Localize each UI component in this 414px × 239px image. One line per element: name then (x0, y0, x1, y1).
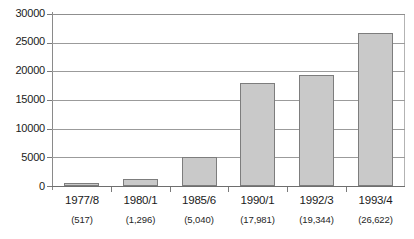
x-axis-category-value: (19,344) (287, 213, 346, 226)
x-axis-category-label: 1992/3 (287, 194, 346, 207)
bar-1992-3 (299, 75, 334, 186)
x-axis-tick-mark (346, 187, 347, 192)
bar-1990-1 (240, 83, 275, 186)
gridline-20000 (52, 71, 405, 72)
x-axis-category-label: 1977/8 (53, 194, 111, 207)
y-axis-tick-label: 20000 (1, 65, 45, 76)
y-axis-tick-label: 30000 (1, 8, 45, 19)
x-axis-category-label: 1985/6 (170, 194, 228, 207)
gridline-10000 (52, 129, 405, 130)
x-axis-tick-mark (111, 187, 112, 192)
bar-1977-8 (64, 183, 99, 186)
gridline-15000 (52, 100, 405, 101)
x-axis-category-label: 1990/1 (228, 194, 287, 207)
y-axis-tick-label: 5000 (1, 152, 45, 163)
x-axis-tick-mark (170, 187, 171, 192)
x-axis-category-1977-8: 1977/8 (517) (53, 194, 111, 226)
x-axis-category-label: 1993/4 (346, 194, 405, 207)
bar-chart: 30000 25000 20000 15000 10000 5000 0 (0, 0, 414, 239)
y-axis-tick-label: 10000 (1, 123, 45, 134)
gridline-30000 (52, 14, 405, 15)
x-axis-category-1990-1: 1990/1 (17,981) (228, 194, 287, 226)
bar-1985-6 (182, 157, 217, 186)
x-axis-category-1980-1: 1980/1 (1,296) (111, 194, 170, 226)
x-axis-category-value: (17,981) (228, 213, 287, 226)
x-axis-category-label: 1980/1 (111, 194, 170, 207)
x-axis-category-1985-6: 1985/6 (5,040) (170, 194, 228, 226)
x-axis-tick-mark (287, 187, 288, 192)
x-axis-tick-mark (228, 187, 229, 192)
plot-area (52, 14, 405, 186)
bar-1993-4 (358, 33, 393, 186)
x-axis-category-1992-3: 1992/3 (19,344) (287, 194, 346, 226)
x-axis-category-value: (517) (53, 213, 111, 226)
gridline-25000 (52, 43, 405, 44)
x-axis-category-1993-4: 1993/4 (26,622) (346, 194, 405, 226)
y-axis-tick-label: 0 (1, 181, 45, 192)
y-axis-tick-label: 25000 (1, 36, 45, 47)
gridline-5000 (52, 157, 405, 158)
y-axis-tick-label: 15000 (1, 94, 45, 105)
bar-1980-1 (123, 179, 158, 186)
x-axis-category-value: (26,622) (346, 213, 405, 226)
y-axis-labels: 30000 25000 20000 15000 10000 5000 0 (0, 0, 45, 239)
x-axis-category-value: (1,296) (111, 213, 170, 226)
x-axis-category-value: (5,040) (170, 213, 228, 226)
